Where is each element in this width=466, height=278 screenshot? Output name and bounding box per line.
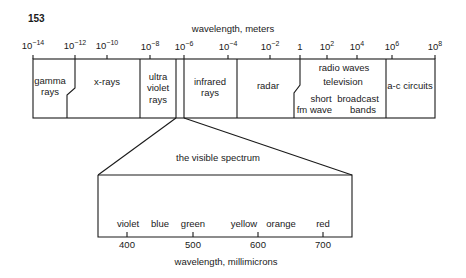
band-uv-label: violet	[147, 82, 170, 93]
tick-600: 600	[250, 239, 266, 250]
tick-500: 500	[185, 239, 201, 250]
tick-label-1e6: 106	[385, 40, 400, 52]
band-labels: gamma rays x-rays ultra violet rays infr…	[34, 62, 433, 115]
em-axis-title: wavelength, meters	[191, 23, 275, 34]
tick-400: 400	[119, 239, 135, 250]
visible-color-labels: violet blue green yellow orange red	[117, 218, 330, 229]
tick-700: 700	[315, 239, 331, 250]
band-broadcast-label: broadcast	[337, 93, 379, 104]
tick-label-1e4: 104	[350, 40, 365, 52]
band-shortwave-label: short	[310, 93, 331, 104]
em-tick-marks	[33, 55, 435, 59]
band-shortwave-label: wave	[309, 104, 332, 115]
band-gamma-label: rays	[41, 86, 59, 97]
em-tick-labels: 10−14 10−12 10−10 10−8 10−6 10−4 10−2 1 …	[22, 39, 443, 52]
tick-label-1e-8: 10−8	[141, 40, 160, 52]
band-radio-waves-label: radio waves	[319, 62, 370, 73]
tick-label-1e-12: 10−12	[64, 39, 87, 51]
zoom-line-right	[184, 118, 352, 175]
visible-tick-labels: 400 500 600 700	[119, 239, 331, 250]
tick-label-1e-14: 10−14	[22, 39, 45, 51]
band-infrared-label: rays	[201, 87, 219, 98]
color-blue-label: blue	[151, 218, 169, 229]
tick-label-1e-2: 10−2	[261, 40, 280, 52]
band-radar-label: radar	[257, 80, 279, 91]
color-red-label: red	[316, 218, 330, 229]
tick-label-1e-6: 10−6	[175, 40, 194, 52]
band-fm-label: fm	[297, 104, 308, 115]
band-xrays-label: x-rays	[94, 76, 120, 87]
zoom-line-left	[98, 118, 176, 175]
page-number: 153	[28, 13, 45, 24]
color-orange-label: orange	[266, 218, 296, 229]
divider-gamma-xray	[67, 59, 75, 118]
band-ac-label: a-c circuits	[387, 80, 433, 91]
band-gamma-label: gamma	[34, 75, 66, 86]
tick-label-1e2: 102	[320, 40, 335, 52]
visible-spectrum-title: the visible spectrum	[176, 152, 260, 163]
tick-label-1e8: 108	[428, 40, 443, 52]
color-violet-label: violet	[117, 218, 140, 229]
band-uv-label: ultra	[149, 71, 168, 82]
electromagnetic-spectrum-diagram: 153 wavelength, meters 10−14 10−12 10−10…	[0, 0, 466, 278]
band-broadcast-label: bands	[350, 104, 376, 115]
tick-label-1e-4: 10−4	[219, 40, 238, 52]
band-uv-label: rays	[149, 94, 167, 105]
tick-label-1e-10: 10−10	[96, 39, 119, 51]
color-yellow-label: yellow	[231, 218, 258, 229]
band-infrared-label: infrared	[194, 76, 226, 87]
color-green-label: green	[181, 218, 205, 229]
visible-axis-title: wavelength, millimicrons	[174, 256, 278, 267]
tick-label-1: 1	[297, 41, 302, 52]
band-television-label: television	[323, 76, 363, 87]
